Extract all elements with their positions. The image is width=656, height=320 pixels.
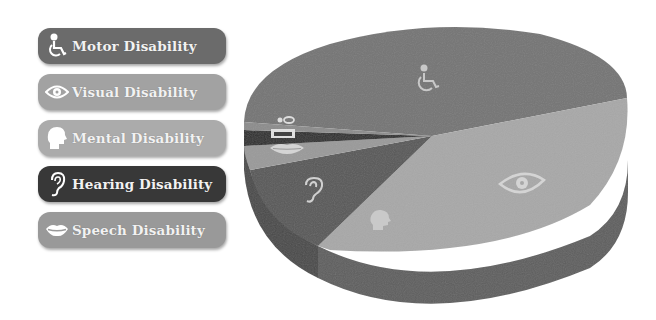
pie-chart-3d [0, 0, 656, 320]
small-slice-icon [271, 129, 295, 138]
